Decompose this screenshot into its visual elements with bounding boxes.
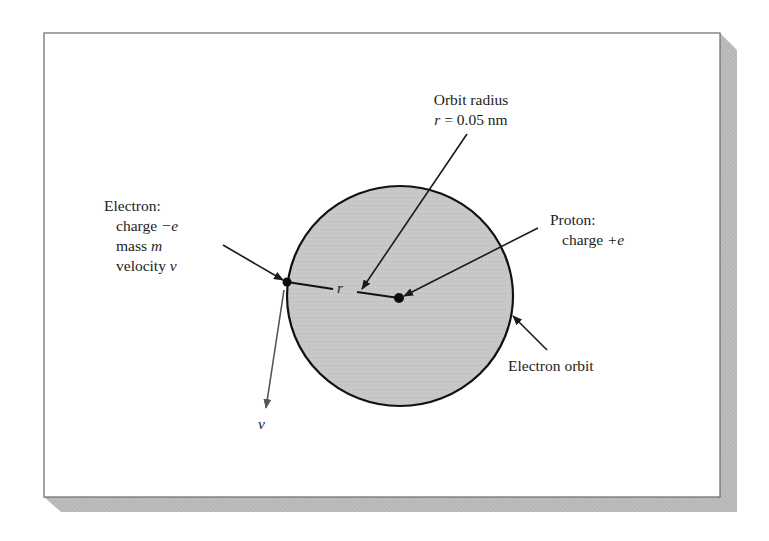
- electron-charge-var: −e: [161, 217, 178, 234]
- proton-charge: charge +e: [550, 230, 624, 250]
- orbit-radius-label: Orbit radius r = 0.05 nm: [416, 90, 526, 130]
- radius-symbol-label: r: [337, 278, 343, 298]
- proton-charge-var: +e: [607, 231, 624, 248]
- proton-charge-text: charge: [562, 231, 607, 248]
- orbit-radius-title: Orbit radius: [416, 90, 526, 110]
- velocity-symbol-label: v: [258, 414, 265, 434]
- electron-charge-text: charge: [116, 217, 161, 234]
- radius-value-text: = 0.05 nm: [440, 111, 507, 128]
- electron-mass-var: m: [151, 237, 162, 254]
- electron-velocity-var: v: [170, 257, 177, 274]
- electron-mass: mass m: [104, 236, 178, 256]
- electron-dot: [283, 278, 292, 287]
- electron-title: Electron:: [104, 196, 178, 216]
- electron-orbit-label: Electron orbit: [508, 356, 594, 376]
- proton-dot: [394, 293, 404, 303]
- proton-label: Proton: charge +e: [550, 210, 624, 250]
- orbit-radius-value: r = 0.05 nm: [416, 110, 526, 130]
- proton-title: Proton:: [550, 210, 624, 230]
- electron-label: Electron: charge −e mass m velocity v: [104, 196, 178, 276]
- bohr-atom-figure: Orbit radius r = 0.05 nm Electron: charg…: [0, 0, 769, 541]
- electron-velocity-text: velocity: [116, 257, 170, 274]
- electron-mass-text: mass: [116, 237, 151, 254]
- electron-velocity: velocity v: [104, 256, 178, 276]
- electron-charge: charge −e: [104, 216, 178, 236]
